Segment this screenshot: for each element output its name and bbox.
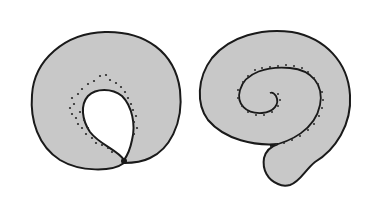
junction-knot: [121, 158, 127, 164]
spiral-shape-right: [200, 31, 350, 186]
ring-shape-left: [32, 32, 181, 169]
illustration: [0, 0, 371, 201]
